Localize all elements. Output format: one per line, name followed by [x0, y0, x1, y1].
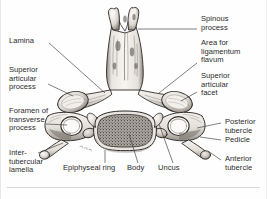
leader-area-for-ligamentum-flavum: [159, 63, 197, 93]
label-posterior-tubercle: Posterior tubercle: [225, 118, 256, 135]
label-body: Body: [127, 164, 144, 173]
leader-superior-articular-facet: [181, 92, 197, 101]
leader-posterior-tubercle: [197, 123, 221, 128]
label-pedicle: Pedicle: [225, 136, 250, 145]
leader-uncus: [159, 124, 173, 163]
leader-anterior-tubercle: [208, 151, 221, 160]
leader-lamina: [49, 43, 105, 93]
label-lamina: Lamina: [9, 37, 34, 46]
label-epiphyseal-ring: Epiphyseal ring: [63, 164, 115, 173]
label-superior-articular-facet: Superior articular facet: [201, 72, 230, 98]
label-anterior-tubercle: Anterior tubercle: [225, 155, 252, 172]
label-uncus: Uncus: [158, 164, 180, 173]
leader-pedicle: [200, 137, 221, 140]
label-spinous-process: Spinous process: [201, 15, 229, 32]
leader-foramen-of-transverse-process: [46, 124, 67, 125]
leader-body: [129, 134, 138, 163]
label-area-for-ligamentum-flavum: Area for ligamentum flavum: [201, 39, 240, 65]
label-foramen-of-transverse-process: Foramen of transverse process: [9, 107, 48, 133]
cervical-vertebra-figure: Lamina Superior articular process Forame…: [0, 0, 267, 199]
label-superior-articular-process: Superior articular process: [9, 66, 38, 92]
leader-superior-articular-process: [48, 84, 73, 96]
label-intertubercular-lamella: Inter- tubercular lamella: [9, 149, 43, 175]
bottom-divider: [7, 187, 260, 188]
